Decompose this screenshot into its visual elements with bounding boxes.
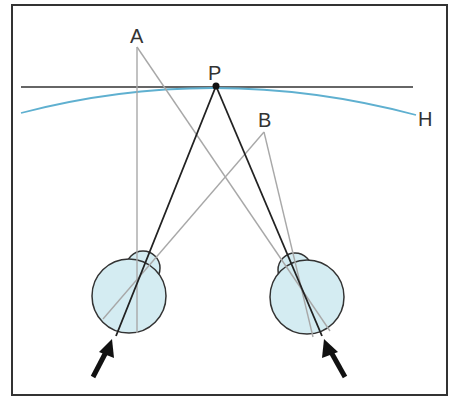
label-p: P [208, 62, 221, 84]
ray-b-left [103, 132, 264, 319]
right-arrow-icon [322, 339, 345, 377]
binocular-vision-diagram: A P B H [0, 0, 456, 404]
left-eyeball [92, 259, 166, 333]
left-arrow-icon [93, 339, 114, 377]
label-b: B [258, 109, 271, 131]
right-eye [270, 253, 344, 334]
label-a: A [130, 25, 144, 47]
label-h: H [418, 108, 432, 130]
diagram-frame [12, 5, 447, 395]
left-eye [92, 251, 166, 333]
